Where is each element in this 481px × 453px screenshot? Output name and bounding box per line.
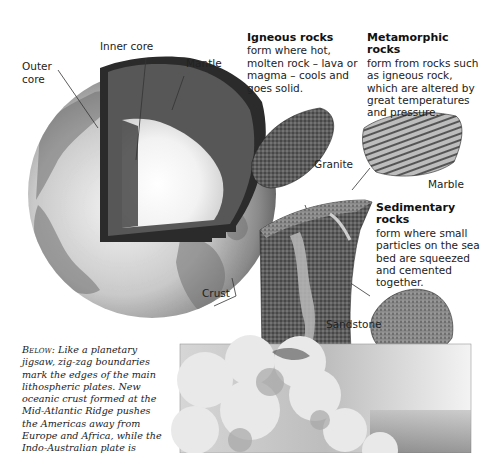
label-granite: Granite <box>314 158 353 171</box>
label-crust: Crust <box>202 287 230 300</box>
caption-lead: Below: <box>22 344 55 355</box>
igneous-rocks-title: Igneous rocks <box>247 32 359 44</box>
metamorphic-rocks-body: form from rocks such as igneous rock, wh… <box>367 57 478 119</box>
figure-caption: Below: Like a planetary jigsaw, zig-zag … <box>22 344 164 453</box>
label-sandstone: Sandstone <box>326 318 382 331</box>
igneous-rocks-description: Igneous rocks form where hot, molten roc… <box>247 32 359 94</box>
label-outer-core-line1: Outer <box>22 60 52 73</box>
sedimentary-rocks-description: Sedimentary rocks form where small parti… <box>376 202 481 289</box>
metamorphic-rocks-description: Metamorphic rocks form from rocks such a… <box>367 32 479 119</box>
label-inner-core: Inner core <box>100 40 153 53</box>
label-marble: Marble <box>428 178 464 191</box>
metamorphic-rocks-title: Metamorphic rocks <box>367 32 479 57</box>
igneous-rocks-body: form where hot, molten rock – lava or ma… <box>247 44 358 93</box>
marble-rock <box>363 112 462 176</box>
earth-globe <box>28 56 276 318</box>
volcano-eruption-photo <box>171 335 471 453</box>
sedimentary-rocks-body: form where small particles on the sea be… <box>376 227 480 289</box>
rock-cross-section <box>260 200 372 362</box>
sedimentary-rocks-title: Sedimentary rocks <box>376 202 481 227</box>
label-outer-core-line2: core <box>22 73 45 86</box>
label-mantle: Mantle <box>186 57 222 70</box>
caption-text: Like a planetary jigsaw, zig-zag boundar… <box>22 344 162 453</box>
